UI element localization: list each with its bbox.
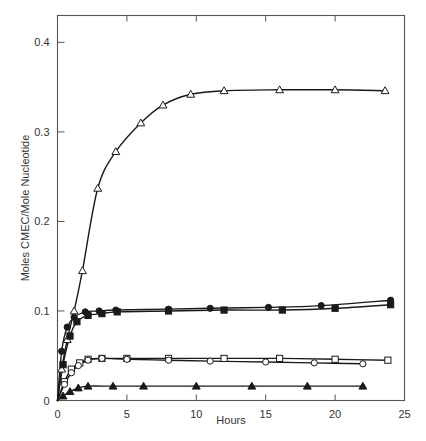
- marker-circle-open: [207, 358, 213, 364]
- marker-square-filled: [279, 307, 285, 313]
- marker-square-filled: [388, 302, 394, 308]
- marker-circle-filled: [64, 324, 70, 330]
- marker-square-filled: [165, 308, 171, 314]
- x-axis-label: Hours: [216, 414, 246, 426]
- chart-figure: 0510152025 00.10.20.30.4 Hours Moles CME…: [0, 0, 426, 441]
- marker-square-filled: [60, 362, 66, 368]
- y-tick-label: 0.1: [34, 305, 49, 317]
- marker-square-open: [332, 356, 338, 362]
- marker-circle-open: [311, 360, 317, 366]
- marker-square-open: [385, 357, 391, 363]
- marker-circle-open: [263, 359, 269, 365]
- marker-circle-open: [99, 355, 105, 361]
- marker-square-filled: [74, 319, 80, 325]
- marker-circle-filled: [318, 302, 324, 308]
- marker-square-open: [276, 355, 282, 361]
- marker-square-filled: [332, 305, 338, 311]
- y-tick-label: 0.3: [34, 126, 49, 138]
- y-tick-label: 0.4: [34, 36, 49, 48]
- x-tick-label: 5: [124, 408, 130, 420]
- marker-circle-open: [165, 357, 171, 363]
- marker-circle-open: [75, 362, 81, 368]
- x-tick-label: 15: [260, 408, 272, 420]
- marker-circle-filled: [207, 305, 213, 311]
- marker-circle-open: [124, 356, 130, 362]
- x-tick-label: 0: [54, 408, 60, 420]
- marker-square-filled: [221, 307, 227, 313]
- y-tick-label: 0.2: [34, 215, 49, 227]
- marker-circle-open: [360, 361, 366, 367]
- marker-circle-filled: [59, 348, 65, 354]
- kinetics-line-chart: 0510152025 00.10.20.30.4 Hours Moles CME…: [0, 0, 426, 441]
- marker-circle-open: [61, 381, 67, 387]
- x-tick-label: 20: [329, 408, 341, 420]
- marker-square-filled: [99, 311, 105, 317]
- marker-square-open: [221, 355, 227, 361]
- marker-circle-filled: [265, 304, 271, 310]
- x-tick-label: 10: [190, 408, 202, 420]
- marker-square-filled: [67, 333, 73, 339]
- marker-square-filled: [114, 309, 120, 315]
- y-axis-label: Moles CMEC/Mole Nucleotide: [19, 135, 31, 282]
- marker-circle-open: [68, 370, 74, 376]
- x-tick-label: 25: [398, 408, 410, 420]
- marker-circle-open: [85, 357, 91, 363]
- chart-background: [0, 0, 426, 441]
- marker-square-filled: [85, 312, 91, 318]
- y-tick-label: 0: [43, 395, 49, 407]
